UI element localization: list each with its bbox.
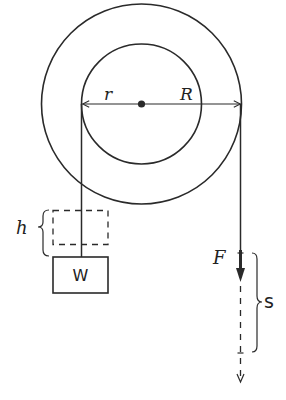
distance-label: s — [264, 290, 274, 312]
outer-radius-label: R — [179, 84, 193, 104]
center-hub — [138, 100, 145, 107]
pulley-diagram: r R h W F s — [0, 0, 286, 400]
force-label: F — [212, 247, 227, 268]
weight-label: W — [73, 266, 89, 285]
height-label: h — [16, 217, 28, 238]
force-arrowhead — [236, 268, 245, 282]
inner-radius-label: r — [104, 84, 113, 104]
height-brace — [38, 210, 49, 256]
distance-brace — [252, 253, 262, 352]
weight-initial-position — [53, 211, 108, 245]
